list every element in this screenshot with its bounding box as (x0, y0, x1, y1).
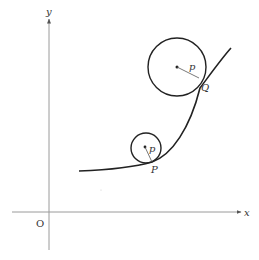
origin-label: O (36, 218, 44, 229)
small-circle-group: p P (131, 133, 161, 175)
y-axis-label: y (45, 6, 52, 17)
tangent-point-P-label: P (150, 164, 158, 175)
large-circle-radius-label: p (189, 61, 196, 72)
axes: x y O (12, 6, 250, 250)
tangent-point-Q-label: Q (201, 82, 209, 93)
large-circle-radius (177, 67, 199, 78)
stray-mark (100, 189, 101, 190)
large-circle-group: p Q (148, 38, 209, 96)
small-circle (131, 133, 161, 163)
x-axis-label: x (244, 207, 250, 218)
diagram-canvas: x y O p P p Q (0, 0, 259, 260)
small-circle-radius-label: p (149, 143, 156, 154)
